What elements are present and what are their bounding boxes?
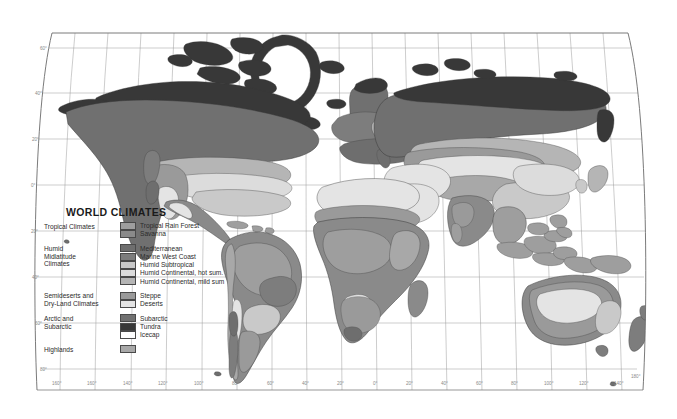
svg-text:0°: 0°: [31, 183, 36, 188]
svg-text:120°: 120°: [579, 381, 589, 386]
svg-text:80°: 80°: [511, 381, 518, 386]
legend-title: WORLD CLIMATES: [66, 206, 240, 218]
legend-color-swatch: [120, 292, 136, 300]
legend-entry[interactable]: Humid Continental, mild sum: [120, 278, 240, 286]
legend-category-line: Humid: [44, 245, 120, 253]
legend-group: Arctic andSubarcticSubarcticTundraIcecap: [44, 315, 240, 340]
legend-category-line: Semideserts and: [44, 292, 120, 300]
legend-category-label: Arctic andSubarctic: [44, 315, 120, 331]
svg-text:80°: 80°: [40, 367, 47, 372]
legend-entry-list: SubarcticTundraIcecap: [120, 315, 240, 340]
legend-color-swatch: [120, 253, 136, 261]
legend-entry-label: Marine West Coast: [140, 253, 196, 261]
legend-color-swatch: [120, 261, 136, 269]
legend-category-label: Tropical Climates: [44, 222, 120, 230]
legend-entry[interactable]: Tundra: [120, 323, 240, 331]
legend-entry-label: Icecap: [140, 331, 159, 339]
legend-category-line: Arctic and: [44, 315, 120, 323]
legend-entry[interactable]: Marine West Coast: [120, 253, 240, 261]
legend-entry[interactable]: Tropical Rain Forest: [120, 222, 240, 230]
legend-entry-label: Subarctic: [140, 315, 168, 323]
svg-text:60°: 60°: [40, 46, 47, 51]
svg-text:80°: 80°: [232, 381, 239, 386]
svg-text:100°: 100°: [544, 381, 554, 386]
legend-entry[interactable]: Steppe: [120, 292, 240, 300]
legend-category-line: Climates: [44, 260, 120, 268]
world-climate-map: 60° 40° 20° 0° 20° 40° 60° 80° 160° 160°…: [0, 0, 677, 419]
scandinavia-tundra: [354, 78, 387, 94]
map-legend: WORLD CLIMATES Tropical ClimatesTropical…: [44, 206, 240, 360]
svg-text:160°: 160°: [52, 381, 62, 386]
legend-entry[interactable]: Humid Subtropical: [120, 261, 240, 269]
legend-category-line: Subarctic: [44, 323, 120, 331]
legend-entry-list: MediterraneanMarine West CoastHumid Subt…: [120, 245, 240, 286]
legend-color-swatch: [120, 222, 136, 230]
svg-text:20°: 20°: [32, 137, 39, 142]
svg-text:60°: 60°: [35, 321, 42, 326]
new-zealand: [629, 317, 649, 352]
legend-entry[interactable]: Deserts: [120, 300, 240, 308]
svg-text:60°: 60°: [476, 381, 483, 386]
legend-category-line: Tropical Climates: [44, 223, 120, 231]
legend-color-swatch: [120, 277, 136, 285]
legend-group: Semideserts andDry-Land ClimatesSteppeDe…: [44, 292, 240, 309]
legend-entry-label: Tundra: [140, 323, 161, 331]
legend-entry-label: Mediterranean: [140, 245, 183, 253]
legend-entry-label: Savanna: [140, 230, 166, 238]
legend-category-line: Dry-Land Climates: [44, 300, 120, 308]
legend-group: Highlands: [44, 345, 240, 353]
legend-category-label: Semideserts andDry-Land Climates: [44, 292, 120, 308]
legend-entry-label: Humid Continental, mild sum: [140, 278, 224, 286]
legend-entry-label: Deserts: [140, 300, 163, 308]
legend-entry-label: Humid Continental, hot sum.: [140, 269, 223, 277]
svg-text:40°: 40°: [35, 91, 42, 96]
svg-text:20°: 20°: [406, 381, 413, 386]
legend-entry-list: SteppeDeserts: [120, 292, 240, 309]
legend-entry-label: Tropical Rain Forest: [140, 222, 199, 230]
legend-color-swatch: [120, 300, 136, 308]
svg-text:40°: 40°: [32, 275, 39, 280]
legend-entry[interactable]: Mediterranean: [120, 245, 240, 253]
argentina-steppe: [239, 331, 260, 372]
legend-category-line: Midlatitude: [44, 253, 120, 261]
svg-text:0°: 0°: [373, 381, 378, 386]
svg-text:20°: 20°: [337, 381, 344, 386]
madagascar: [408, 281, 428, 317]
svg-text:180°: 180°: [631, 374, 641, 379]
svg-text:20°: 20°: [31, 229, 38, 234]
legend-group: HumidMidlatitudeClimatesMediterraneanMar…: [44, 245, 240, 286]
legend-entry-list: Tropical Rain ForestSavanna: [120, 222, 240, 239]
svg-text:140°: 140°: [123, 381, 133, 386]
legend-entry[interactable]: Subarctic: [120, 315, 240, 323]
brazil-savanna: [260, 276, 297, 306]
legend-entry[interactable]: Savanna: [120, 230, 240, 238]
korea-peninsula: [576, 179, 587, 193]
svg-text:160°: 160°: [87, 381, 97, 386]
legend-category-label: HumidMidlatitudeClimates: [44, 245, 120, 268]
tasmania: [596, 345, 608, 356]
new-guinea: [590, 256, 630, 274]
svg-text:100°: 100°: [194, 381, 204, 386]
svg-text:60°: 60°: [267, 381, 274, 386]
legend-entry-label: Steppe: [140, 292, 161, 300]
legend-color-swatch: [120, 345, 136, 353]
legend-entry-label: Humid Subtropical: [140, 261, 194, 269]
legend-color-swatch: [120, 314, 136, 322]
legend-color-swatch: [120, 230, 136, 238]
longitude-labels-bottom: 160° 160° 140° 120° 100° 80° 60° 40° 20°…: [52, 374, 641, 386]
legend-color-swatch: [120, 244, 136, 252]
legend-entry[interactable]: [120, 345, 240, 353]
legend-color-swatch: [120, 323, 136, 331]
legend-category-line: Highlands: [44, 346, 120, 354]
svg-text:140°: 140°: [614, 381, 624, 386]
legend-color-swatch: [120, 331, 136, 339]
kamchatka-tundra: [597, 109, 614, 142]
legend-groups: Tropical ClimatesTropical Rain ForestSav…: [44, 222, 240, 354]
legend-entry[interactable]: Humid Continental, hot sum.: [120, 269, 240, 277]
legend-entry[interactable]: Icecap: [120, 331, 240, 339]
iceland-tundra: [327, 99, 346, 109]
svg-text:120°: 120°: [158, 381, 168, 386]
svg-text:40°: 40°: [441, 381, 448, 386]
legend-group: Tropical ClimatesTropical Rain ForestSav…: [44, 222, 240, 239]
legend-category-label: Highlands: [44, 345, 120, 353]
